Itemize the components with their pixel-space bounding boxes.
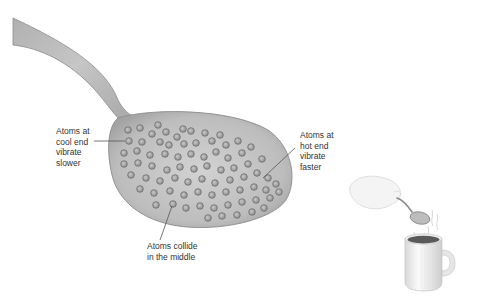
atom-icon [163,129,170,136]
atom-icon [134,148,141,155]
atom-icon [237,187,244,194]
atom-icon [213,149,220,156]
atom-icon [125,127,132,134]
atom-icon [188,128,195,135]
atom-icon [197,203,204,210]
atom-icon [249,209,256,216]
atom-icon [167,188,174,195]
atom-icon [135,160,142,167]
atom-icon [212,180,219,187]
atom-icon [205,215,212,222]
atom-icon [259,156,266,163]
atom-icon [211,205,218,212]
atom-icon [199,176,206,183]
atom-icon [162,151,169,158]
atom-icon [143,175,150,182]
atom-icon [204,163,211,170]
atom-icon [153,202,160,209]
label-middle: Atoms collide in the middle [147,241,198,262]
atom-icon [239,150,246,157]
atom-icon [155,122,162,129]
atom-icon [219,213,226,220]
atom-icon [202,130,209,137]
small-spoon-handle [397,198,412,212]
atom-icon [276,189,283,196]
atom-icon [157,178,164,185]
atom-icon [251,184,258,191]
label-cool-end: Atoms at cool end vibrate slower [56,126,90,168]
atom-icon [254,170,261,177]
atom-icon [174,134,181,141]
atom-icon [261,205,268,212]
atom-icon [267,195,274,202]
label-hot-end: Atoms at hot end vibrate faster [300,130,334,172]
mug-icon [405,234,455,291]
atom-icon [181,141,188,148]
atom-icon [248,144,255,151]
atom-icon [151,190,158,197]
atom-icon [193,140,200,147]
atom-icon [225,155,232,162]
atom-icon [181,192,188,199]
atom-icon [235,138,242,145]
atom-icon [209,138,216,145]
atom-icon [209,192,216,199]
atom-icon [183,205,190,212]
atom-icon [223,189,230,196]
atom-icon [195,189,202,196]
atom-icon [188,151,195,158]
atom-icon [217,132,224,139]
atom-icon [166,142,173,149]
diagram-stage: Atoms at cool end vibrate slower Atoms a… [0,0,477,296]
atom-icon [234,212,241,219]
mug-handle [442,250,455,276]
atom-icon [137,125,144,132]
atom-icon [273,181,280,188]
atom-icon [137,186,144,193]
inset-illustration [350,176,455,291]
atom-icon [201,154,208,161]
atom-icon [126,138,133,145]
atom-icon [121,150,128,157]
atom-icon [149,131,156,138]
atom-icon [157,139,164,146]
atom-icon [121,161,128,168]
coffee-surface [408,236,440,244]
atom-icon [223,142,230,149]
atom-icon [225,202,232,209]
atom-icon [239,199,246,206]
atom-icon [128,172,135,179]
hand-icon [350,176,401,209]
atom-icon [172,175,179,182]
atom-icon [241,174,248,181]
atom-icon [139,139,146,146]
atom-icon [185,179,192,186]
atom-icon [263,187,270,194]
atom-icon [191,166,198,173]
atom-icon [253,197,260,204]
atom-icon [231,165,238,172]
spoon-handle [13,18,134,120]
atom-icon [175,154,182,161]
atom-icon [170,201,177,208]
atom-icon [149,163,156,170]
atom-icon [227,177,234,184]
atom-icon [218,167,225,174]
atom-icon [245,161,252,168]
atom-icon [164,167,171,174]
atom-icon [147,152,154,159]
atom-icon [177,164,184,171]
atom-icon [180,126,187,133]
